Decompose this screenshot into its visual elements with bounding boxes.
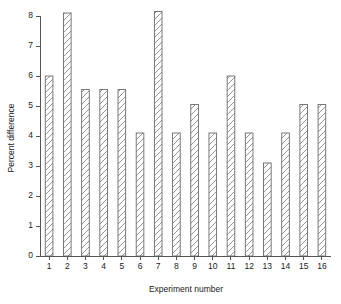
y-tick-label: 5 [28, 100, 33, 110]
bar [154, 12, 162, 257]
bar [82, 90, 90, 257]
y-axis-label: Percent difference [6, 103, 16, 172]
bar [227, 76, 235, 256]
x-tick-label: 13 [263, 261, 273, 271]
x-tick-label: 11 [227, 261, 236, 271]
bar [245, 133, 253, 256]
y-tick-label: 4 [28, 130, 33, 140]
x-tick-label: 4 [101, 261, 106, 271]
x-tick-label: 14 [281, 261, 291, 271]
bar [45, 76, 53, 256]
y-tick-label: 7 [28, 40, 33, 50]
bar [100, 90, 108, 257]
bar [282, 133, 290, 256]
x-tick-label: 15 [299, 261, 309, 271]
y-tick-label: 3 [28, 160, 33, 170]
bar [136, 133, 144, 256]
x-tick-label: 3 [83, 261, 88, 271]
y-tick-label: 1 [28, 220, 33, 230]
x-axis-label: Experiment number [149, 284, 223, 294]
x-tick-label: 1 [47, 261, 52, 271]
y-tick-label: 6 [28, 70, 33, 80]
x-tick-label: 10 [208, 261, 218, 271]
x-tick-label: 12 [244, 261, 254, 271]
x-tick-label: 8 [174, 261, 179, 271]
y-tick-label: 0 [28, 250, 33, 260]
x-tick-label: 7 [156, 261, 161, 271]
bar [209, 133, 217, 256]
bar-chart-figure: 012345678 12345678910111213141516 Experi… [0, 0, 341, 304]
bar [318, 105, 326, 257]
bar [173, 133, 181, 256]
x-tick-label: 2 [65, 261, 70, 271]
x-tick-label: 16 [317, 261, 327, 271]
y-tick-label: 8 [28, 10, 33, 20]
bar [63, 13, 71, 256]
bar [191, 105, 199, 257]
bar [300, 105, 308, 257]
y-tick-label: 2 [28, 190, 33, 200]
chart-canvas: 012345678 12345678910111213141516 Experi… [0, 0, 341, 304]
x-tick-label: 6 [138, 261, 143, 271]
bar [264, 163, 272, 256]
x-tick-label: 5 [119, 261, 124, 271]
bar [118, 90, 126, 257]
x-tick-label: 9 [192, 261, 197, 271]
